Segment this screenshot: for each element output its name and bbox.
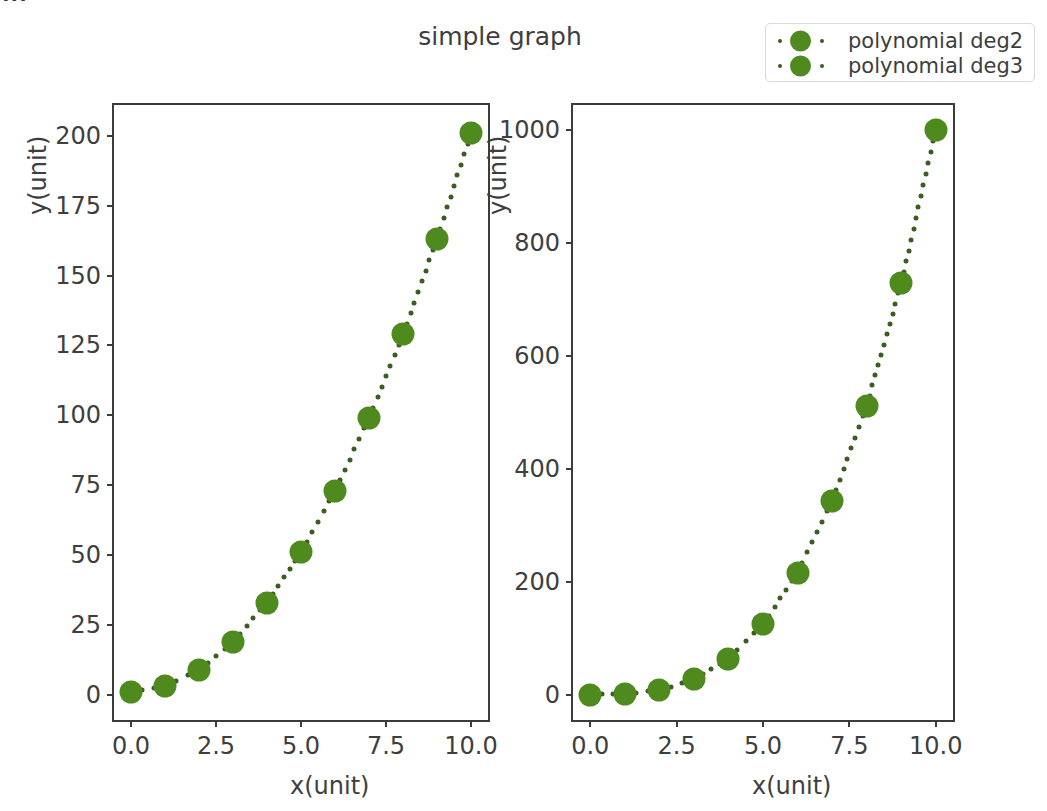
plot-surface-right: 020040060080010000.02.55.07.510.0 [573, 105, 953, 720]
legend-entry-deg2: polynomial deg2 [776, 28, 1026, 53]
trend-line-dot [810, 540, 815, 545]
y-tick-label: 800 [514, 229, 560, 257]
trend-line-dot [853, 435, 858, 440]
y-tick-label: 200 [55, 122, 101, 150]
trend-line-dot [416, 289, 421, 294]
x-tick-mark [300, 720, 302, 727]
y-tick-label: 100 [55, 401, 101, 429]
data-point-marker [256, 591, 279, 614]
y-axis-label-right: y(unit) [484, 136, 512, 215]
trend-line-dot [709, 666, 714, 671]
data-point-marker [358, 407, 381, 430]
y-tick-mark [107, 484, 114, 486]
y-tick-label: 0 [86, 681, 101, 709]
y-tick-mark [107, 624, 114, 626]
x-tick-label: 5.0 [282, 732, 320, 760]
trend-line-dot [921, 182, 926, 187]
trend-line-dot [837, 477, 842, 482]
legend-marker-icon [776, 55, 834, 77]
trend-line-dot [375, 395, 380, 400]
data-point-marker [786, 561, 809, 584]
trend-line-dot [784, 587, 789, 592]
x-tick-mark [676, 720, 678, 727]
trend-line-dot [778, 596, 783, 601]
y-tick-mark [566, 694, 573, 696]
data-point-marker [188, 658, 211, 681]
trend-line-dot [427, 258, 432, 263]
data-point-marker [154, 675, 177, 698]
trend-line-dot [879, 352, 884, 357]
x-tick-label: 10.0 [444, 732, 497, 760]
data-point-marker [752, 613, 775, 636]
y-tick-mark [566, 129, 573, 131]
trend-line-dot [916, 204, 921, 209]
matplotlib-figure: ··· simple graph polynomial deg2 polynom… [0, 0, 1047, 811]
trend-line-dot [805, 550, 810, 555]
data-point-marker [648, 679, 671, 702]
trend-line-dot [347, 457, 352, 462]
x-tick-label: 7.5 [830, 732, 868, 760]
x-tick-mark [215, 720, 217, 727]
trend-line-dot [462, 152, 467, 157]
trend-line-dot [448, 194, 453, 199]
y-tick-mark [566, 355, 573, 357]
plot-surface-left: 02550751001251501752000.02.55.07.510.0 [114, 105, 488, 720]
x-tick-label: 10.0 [909, 732, 962, 760]
trend-line-dot [849, 446, 854, 451]
trend-line-dot [352, 447, 357, 452]
trend-line-dot [904, 259, 909, 264]
trend-line-dot [419, 279, 424, 284]
y-tick-label: 75 [70, 471, 101, 499]
trend-line-dot [870, 383, 875, 388]
x-axis-label-right: x(unit) [752, 772, 831, 800]
y-tick-mark [566, 242, 573, 244]
trend-line-dot [408, 311, 413, 316]
x-tick-label: 5.0 [744, 732, 782, 760]
trend-line-dot [845, 456, 850, 461]
x-tick-mark [762, 720, 764, 727]
trend-line-dot [913, 215, 918, 220]
trend-line-dot [276, 583, 281, 588]
legend-label-deg2: polynomial deg2 [848, 29, 1023, 53]
trend-line-dot [893, 301, 898, 306]
trend-line-dot [884, 332, 889, 337]
trend-line-dot [887, 322, 892, 327]
trend-line-dot [357, 436, 362, 441]
trend-line-dot [423, 268, 428, 273]
y-tick-label: 150 [55, 262, 101, 290]
trend-line-dot [911, 226, 916, 231]
page-title: simple graph [345, 22, 655, 51]
y-tick-mark [107, 135, 114, 137]
trend-line-dot [379, 384, 384, 389]
data-point-marker [460, 121, 483, 144]
data-point-marker [821, 490, 844, 513]
trend-line-dot [928, 150, 933, 155]
x-tick-mark [130, 720, 132, 727]
trend-line-dot [392, 353, 397, 358]
trend-line-dot [342, 468, 347, 473]
plot-panel-left: 02550751001251501752000.02.55.07.510.0 [112, 103, 490, 722]
trend-line-dot [815, 529, 820, 534]
trend-line-dot [251, 616, 256, 621]
y-axis-label-left: y(unit) [24, 136, 52, 215]
data-point-marker [426, 228, 449, 251]
trend-line-dot [412, 300, 417, 305]
trend-line-dot [841, 467, 846, 472]
data-point-marker [579, 683, 602, 706]
y-tick-label: 400 [514, 455, 560, 483]
y-tick-label: 200 [514, 568, 560, 596]
trend-line-dot [282, 575, 287, 580]
y-tick-label: 25 [70, 611, 101, 639]
y-tick-mark [566, 581, 573, 583]
y-tick-mark [107, 414, 114, 416]
trend-line-dot [455, 173, 460, 178]
data-point-marker [613, 683, 636, 706]
trend-line-dot [909, 237, 914, 242]
trend-line-dot [452, 184, 457, 189]
y-tick-label: 175 [55, 192, 101, 220]
trend-line-dot [310, 529, 315, 534]
trend-line-dot [321, 509, 326, 514]
trend-line-dot [316, 519, 321, 524]
legend-marker-icon [776, 30, 834, 52]
data-point-marker [392, 323, 415, 346]
